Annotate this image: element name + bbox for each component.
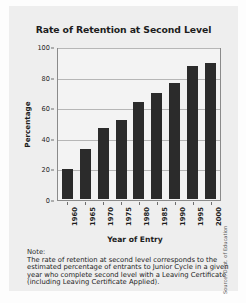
y-tick-mark xyxy=(51,78,54,79)
x-tick-mark xyxy=(121,202,122,205)
bar xyxy=(151,93,162,199)
x-tick-mark xyxy=(157,202,158,205)
x-tick: 1965 xyxy=(80,202,91,232)
y-tick-label: 60 xyxy=(42,105,50,113)
plot-area xyxy=(57,48,221,201)
y-tick-label: 80 xyxy=(42,75,50,83)
x-tick: 1990 xyxy=(170,202,181,232)
bar xyxy=(98,128,109,199)
x-tick-label: 1990 xyxy=(179,207,187,226)
figure-panel: Rate of Retention at Second Level Percen… xyxy=(9,6,238,291)
plot-wrap xyxy=(57,48,221,201)
x-tick: 1985 xyxy=(152,202,163,232)
x-tick-mark xyxy=(85,202,86,205)
y-axis-ticks: 020406080100 xyxy=(9,48,54,201)
bar xyxy=(62,169,73,199)
x-tick-label: 1995 xyxy=(197,207,205,226)
y-tick-mark xyxy=(51,201,54,202)
note-block: Note: The rate of retention at second le… xyxy=(27,248,217,287)
x-tick: 1995 xyxy=(188,202,199,232)
x-tick-mark xyxy=(211,202,212,205)
x-tick-label: 1965 xyxy=(89,207,97,226)
note-heading: Note: xyxy=(27,248,217,256)
y-tick-mark xyxy=(51,109,54,110)
x-tick-mark xyxy=(193,202,194,205)
bar xyxy=(187,66,198,199)
note-line: (including Leaving Certificate Applied). xyxy=(27,279,217,287)
y-tick-label: 20 xyxy=(42,166,50,174)
y-tick-label: 100 xyxy=(37,44,50,52)
x-tick-mark xyxy=(139,202,140,205)
y-tick-mark xyxy=(51,139,54,140)
x-tick-label: 1960 xyxy=(71,207,79,226)
bar xyxy=(205,63,216,199)
x-tick-label: 1970 xyxy=(107,207,115,226)
x-tick-mark xyxy=(175,202,176,205)
note-lines: The rate of retention at second level co… xyxy=(27,257,217,287)
x-tick-mark xyxy=(103,202,104,205)
x-tick: 1975 xyxy=(116,202,127,232)
x-tick: 2000 xyxy=(206,202,217,232)
page-title: Rate of Retention at Second Level xyxy=(9,24,238,35)
bar xyxy=(80,149,91,199)
x-tick-mark xyxy=(67,202,68,205)
bar xyxy=(133,102,144,199)
y-tick-mark xyxy=(51,170,54,171)
x-tick: 1980 xyxy=(134,202,145,232)
x-tick: 1960 xyxy=(62,202,73,232)
bar xyxy=(169,83,180,199)
source-caption: Source: Dept. of Education xyxy=(222,189,228,294)
x-tick: 1970 xyxy=(98,202,109,232)
x-axis-ticks: 196019651970197519801985199019952000 xyxy=(58,202,220,232)
bar xyxy=(116,120,127,199)
x-tick-label: 1975 xyxy=(125,207,133,226)
y-tick-mark xyxy=(51,48,54,49)
x-tick-label: 1980 xyxy=(143,207,151,226)
x-axis-label: Year of Entry xyxy=(49,235,221,244)
y-tick-label: 40 xyxy=(42,136,50,144)
y-tick-label: 0 xyxy=(46,197,50,205)
x-tick-label: 1985 xyxy=(161,207,169,226)
gridline xyxy=(58,48,220,49)
bar-series xyxy=(59,50,219,199)
